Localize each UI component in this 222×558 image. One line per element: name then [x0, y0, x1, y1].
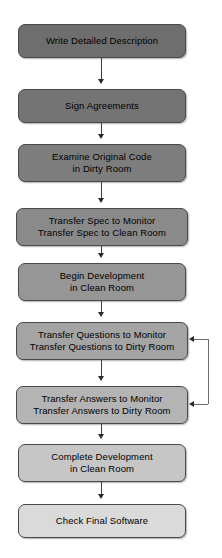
node-label-line: in Clean Room [70, 282, 134, 295]
connector-questions-to-answers [101, 360, 102, 377]
feedback-loop-top-segment [194, 339, 208, 340]
arrowhead-down-icon [98, 79, 104, 84]
arrowhead-down-icon [98, 312, 104, 317]
node-label-line: Check Final Software [56, 515, 148, 528]
arrowhead-down-icon [98, 253, 104, 258]
arrowhead-down-icon [98, 198, 104, 203]
process-node-transfer-questions: Transfer Questions to Monitor Transfer Q… [16, 322, 188, 360]
process-node-examine-original-code: Examine Original Code in Dirty Room [18, 144, 186, 182]
node-label-line: Complete Development [51, 451, 152, 464]
node-label-line: Examine Original Code [52, 151, 152, 164]
process-node-check-final-software: Check Final Software [18, 504, 186, 538]
flowchart-diagram: Write Detailed Description Sign Agreemen… [0, 0, 222, 558]
arrowhead-down-icon [98, 376, 104, 381]
node-label-line: Transfer Answers to Monitor [41, 393, 162, 406]
feedback-loop-bottom-segment [194, 404, 208, 405]
process-node-write-detailed-description: Write Detailed Description [18, 24, 186, 58]
arrowhead-down-icon [98, 494, 104, 499]
process-node-begin-development: Begin Development in Clean Room [18, 263, 186, 301]
node-label-line: Transfer Spec to Clean Room [38, 227, 166, 240]
node-label-line: in Clean Room [70, 463, 134, 476]
node-label-line: Begin Development [60, 270, 145, 283]
connector-examine-to-spec [101, 182, 102, 199]
node-label-line: Transfer Spec to Monitor [49, 215, 156, 228]
process-node-sign-agreements: Sign Agreements [18, 89, 186, 123]
node-label-line: Sign Agreements [65, 100, 139, 113]
process-node-transfer-answers: Transfer Answers to Monitor Transfer Ans… [16, 386, 188, 424]
arrowhead-down-icon [98, 434, 104, 439]
arrowhead-down-icon [98, 134, 104, 139]
feedback-loop-vertical-segment [208, 339, 209, 404]
node-label-line: Transfer Answers to Dirty Room [33, 405, 170, 418]
connector-write-to-sign [101, 58, 102, 80]
node-label-line: Transfer Questions to Dirty Room [30, 341, 174, 354]
process-node-transfer-spec: Transfer Spec to Monitor Transfer Spec t… [16, 208, 188, 246]
arrowhead-left-icon-questions [189, 336, 194, 342]
node-label-line: in Dirty Room [73, 163, 132, 176]
arrowhead-left-icon-answers [189, 401, 194, 407]
process-node-complete-development: Complete Development in Clean Room [18, 444, 186, 482]
node-label-line: Write Detailed Description [46, 35, 158, 48]
node-label-line: Transfer Questions to Monitor [38, 329, 166, 342]
